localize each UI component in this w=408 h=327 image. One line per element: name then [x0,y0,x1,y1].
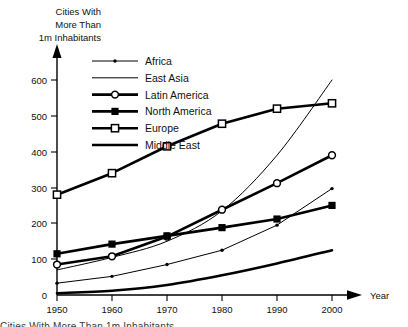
x-axis-ticks: 1950 1960 1970 1980 1990 2000 Year [46,290,389,316]
data-point-europe-2000 [328,100,335,107]
data-point-europe-1960 [108,170,115,177]
legend-swatch-marker-africa [113,59,116,62]
y-tick-600: 600 [31,75,57,86]
series-line-latin-america [57,155,332,264]
data-point-africa-1960 [110,275,113,278]
y-tick-100: 100 [31,254,57,265]
data-point-africa-1980 [220,249,223,252]
x-tick-label-1980: 1980 [211,304,232,315]
legend-item-north-america[interactable]: North America [92,105,212,117]
x-tick-label-1960: 1960 [101,304,122,315]
data-point-latin-america-1960 [109,253,116,260]
x-tick-1970: 1970 [156,295,177,315]
legend-label-africa: Africa [145,55,172,67]
data-point-latin-america-1990 [274,180,281,187]
legend-label-east-asia: East Asia [145,72,189,84]
series-africa [55,187,333,285]
x-tick-1960: 1960 [101,295,122,315]
legend-label-europe: Europe [145,122,179,134]
legend-label-middle-east: Middle East [145,139,200,151]
x-tick-2000: 2000 [321,295,342,315]
figure-caption-clipped: Cities With More Than 1m Inhabitants [0,320,408,327]
x-tick-1990: 1990 [266,295,287,315]
legend-label-north-america: North America [145,105,212,117]
series-line-africa [57,189,332,284]
y-tick-label-0: 0 [42,290,47,301]
series-line-north-america [57,205,332,253]
data-point-north-america-1970 [163,232,170,239]
x-axis-title: Year [370,290,389,301]
legend-item-latin-america[interactable]: Latin America [92,89,209,101]
y-tick-500: 500 [31,111,57,122]
data-point-europe-1950 [53,191,60,198]
data-point-europe-1990 [273,105,280,112]
y-tick-0: 0 [42,290,47,301]
legend-item-east-asia[interactable]: East Asia [92,72,189,84]
data-point-africa-1950 [55,281,58,284]
y-tick-label-300: 300 [31,183,47,194]
x-tick-1950: 1950 [46,295,67,315]
x-tick-1980: 1980 [211,295,232,315]
data-point-africa-2000 [330,187,333,190]
series-north-america [53,202,335,258]
chart-title-line-2: More Than [55,19,101,30]
data-point-latin-america-1950 [54,261,61,268]
y-tick-label-100: 100 [31,254,47,265]
legend-swatch-marker-latin-america [112,91,119,98]
chart-figure: Cities With More Than 1m Inhabitants 600… [0,0,408,327]
legend-item-europe[interactable]: Europe [92,122,179,134]
x-tick-label-1970: 1970 [156,304,177,315]
legend-swatch-marker-north-america [111,108,118,115]
axes [53,44,363,300]
data-point-north-america-1990 [273,215,280,222]
y-tick-200: 200 [31,218,57,229]
data-point-north-america-1950 [53,250,60,257]
legend-label-latin-america: Latin America [145,89,209,101]
data-point-latin-america-1980 [219,206,226,213]
data-point-north-america-2000 [328,202,335,209]
x-axis-arrow-icon [347,290,362,300]
data-point-north-america-1980 [218,224,225,231]
chart-title: Cities With More Than 1m Inhabitants [39,6,102,43]
y-tick-label-500: 500 [31,111,47,122]
y-tick-label-200: 200 [31,218,47,229]
y-tick-400: 400 [31,147,57,158]
data-point-north-america-1960 [108,241,115,248]
legend-item-middle-east[interactable]: Middle East [92,139,200,151]
series-line-middle-east [57,250,332,293]
data-point-africa-1990 [275,223,278,226]
legend-swatch-marker-europe [111,125,118,132]
data-point-africa-1970 [165,263,168,266]
chart-title-line-3: 1m Inhabitants [39,32,102,43]
x-tick-label-1990: 1990 [266,304,287,315]
legend-item-africa[interactable]: Africa [92,55,172,67]
chart-title-line-1: Cities With [56,6,101,17]
y-axis-ticks: 600 500 400 300 200 100 0 [31,75,57,301]
y-tick-label-400: 400 [31,147,47,158]
y-tick-label-600: 600 [31,75,47,86]
data-point-latin-america-2000 [329,152,336,159]
y-axis-arrow-icon [53,44,62,58]
series-latin-america [54,152,336,268]
line-chart-canvas: Cities With More Than 1m Inhabitants 600… [0,0,408,327]
series-middle-east [57,250,332,293]
data-point-europe-1980 [218,120,225,127]
x-tick-label-2000: 2000 [321,304,342,315]
x-tick-label-1950: 1950 [46,304,67,315]
